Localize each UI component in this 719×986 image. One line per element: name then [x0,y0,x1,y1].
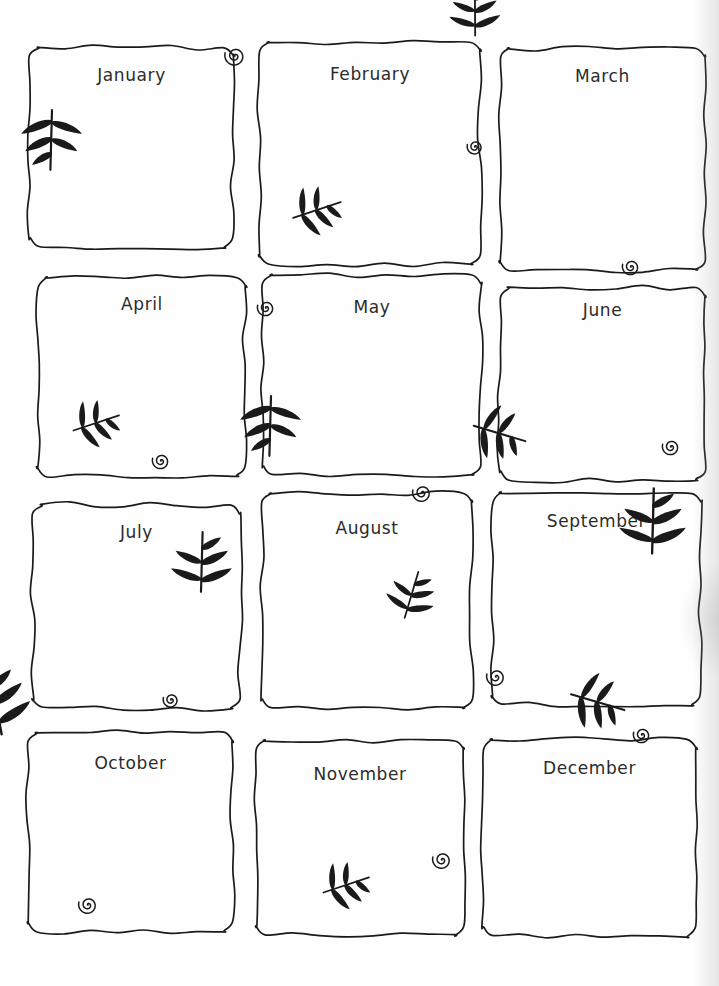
month-card-july[interactable]: July [33,505,240,708]
spiral-curl-bottom-center [620,256,642,278]
month-note-area[interactable] [491,784,688,928]
month-label: October [28,753,233,773]
planner-page: JanuaryFebruaryMarchAprilMayJuneJulyAugu… [0,0,719,986]
month-note-area[interactable] [271,323,473,467]
month-card-december[interactable]: December [483,740,696,936]
spiral-curl-bottom-center [150,450,172,472]
spiral-curl-right-edge [465,137,485,157]
month-grid: JanuaryFebruaryMarchAprilMayJuneJulyAugu… [0,0,719,986]
month-card-february[interactable]: February [260,42,480,264]
month-card-june[interactable]: June [500,288,705,480]
spiral-curl-bottom-center [161,690,181,710]
spiral-curl-bottom-left [484,665,508,689]
month-label: December [483,758,696,778]
spiral-curl-bottom-right [660,436,682,458]
spiral-curl-right-edge [430,848,454,872]
month-card-march[interactable]: March [500,48,705,270]
month-card-august[interactable]: August [262,493,472,708]
spiral-curl-top-left [255,297,277,319]
month-label: January [30,65,233,85]
leaf-sprig-top-left [458,0,492,37]
leaf-sprig-bottom-left-edge [251,395,289,457]
month-label: March [500,66,705,86]
month-card-october[interactable]: October [28,733,233,931]
month-note-area[interactable] [36,779,225,923]
month-card-september[interactable]: September [492,493,701,705]
month-card-november[interactable]: November [256,740,464,935]
spiral-curl-top-right [410,481,434,505]
month-label: June [500,300,705,320]
leaf-sprig-top-left-edge [0,663,24,740]
spiral-curl-top-right [631,724,653,746]
leaf-sprig-left-edge [32,109,70,171]
spiral-curl-bottom-left [76,893,100,917]
month-label: August [262,518,472,538]
spiral-curl-top-right [222,43,248,69]
month-note-area[interactable] [264,790,456,927]
month-label: February [260,64,480,84]
month-note-area[interactable] [46,320,238,468]
month-label: May [263,297,481,317]
month-card-january[interactable]: January [30,47,233,247]
month-note-area[interactable] [500,537,693,697]
month-label: November [256,764,464,784]
month-label: April [38,294,246,314]
leaf-sprig-right-edge [183,531,221,593]
month-note-area[interactable] [508,92,697,262]
month-card-april[interactable]: April [38,278,246,476]
month-card-may[interactable]: May [263,275,481,475]
month-note-area[interactable] [270,544,464,700]
leaf-sprig-right-edge-overflow [632,487,674,555]
